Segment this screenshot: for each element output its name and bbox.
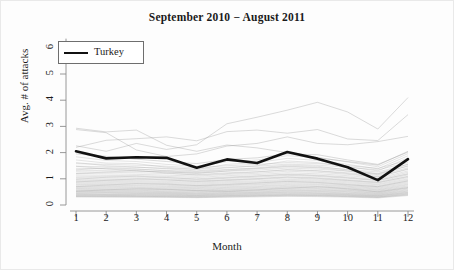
x-tick-1: 1 — [65, 212, 87, 223]
y-tick-0: 0 — [44, 197, 55, 211]
legend-label-turkey: Turkey — [94, 47, 124, 58]
y-tick-5: 5 — [44, 66, 55, 80]
y-tick-4: 4 — [44, 92, 55, 106]
y-tick-6: 6 — [44, 39, 55, 53]
legend-box: Turkey — [58, 41, 144, 64]
y-tick-3: 3 — [44, 118, 55, 132]
legend-line-swatch — [64, 52, 88, 54]
x-tick-8: 8 — [276, 212, 298, 223]
y-tick-2: 2 — [44, 144, 55, 158]
x-tick-9: 9 — [306, 212, 328, 223]
x-tick-10: 10 — [337, 212, 359, 223]
y-tick-1: 1 — [44, 170, 55, 184]
x-tick-3: 3 — [125, 212, 147, 223]
x-tick-6: 6 — [216, 212, 238, 223]
x-tick-12: 12 — [397, 212, 419, 223]
x-tick-5: 5 — [186, 212, 208, 223]
chart-figure: September 2010 − August 2011 Avg. # of a… — [0, 0, 454, 270]
x-tick-4: 4 — [156, 212, 178, 223]
x-tick-11: 11 — [367, 212, 389, 223]
background-series-group — [76, 98, 408, 198]
x-tick-2: 2 — [95, 212, 117, 223]
x-tick-7: 7 — [246, 212, 268, 223]
